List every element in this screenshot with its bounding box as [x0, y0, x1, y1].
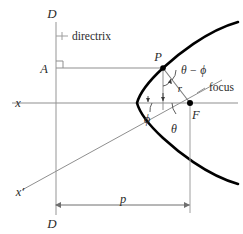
label-point-f: F	[191, 108, 200, 122]
label-directrix-bottom: D	[46, 216, 57, 231]
label-directrix-name: directrix	[72, 30, 111, 42]
label-angle-phi: ϕ	[144, 112, 150, 126]
point-f-marker	[187, 100, 193, 106]
label-axis-x-prime: x′	[15, 185, 25, 199]
label-distance-p: p	[119, 192, 126, 206]
label-directrix-top: D	[46, 6, 57, 21]
x-prime-axis-line	[22, 80, 222, 190]
parabola-figure: D directrix A P θ − ϕ r focus F x x′ ϕ θ…	[0, 0, 243, 234]
arc-theta-minus-phi-inner	[163, 79, 171, 86]
label-angle-theta: θ	[171, 122, 177, 136]
label-point-p: P	[153, 50, 162, 64]
label-radius-r: r	[178, 82, 183, 94]
right-angle-marker	[56, 61, 63, 68]
label-axis-x: x	[14, 96, 21, 110]
label-point-a: A	[39, 62, 48, 76]
point-p-marker	[160, 65, 166, 71]
figure-canvas: D directrix A P θ − ϕ r focus F x x′ ϕ θ…	[0, 0, 243, 234]
label-focus: focus	[209, 81, 234, 93]
arc-theta	[172, 103, 176, 114]
arc-phi	[150, 103, 152, 112]
label-theta-minus-phi: θ − ϕ	[181, 64, 206, 77]
arc-theta-minus-phi	[172, 70, 176, 80]
